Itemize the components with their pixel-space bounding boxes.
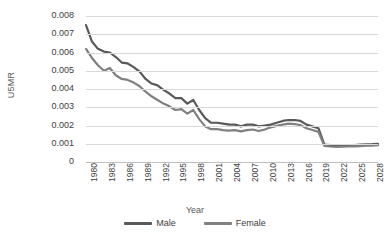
y-tick-label: 0.002 xyxy=(28,121,74,130)
legend-item-male[interactable]: Male xyxy=(124,218,176,228)
gridline xyxy=(86,144,378,145)
x-axis-tick-labels: 1980198319861989199219951998200120042007… xyxy=(86,165,378,205)
x-tick-label: 2028 xyxy=(376,163,390,203)
gridline xyxy=(86,126,378,127)
y-tick-label: 0.003 xyxy=(28,102,74,111)
gridline xyxy=(86,53,378,54)
series-line-male xyxy=(86,25,378,145)
y-axis-title: U5MR xyxy=(2,50,20,120)
y-axis-tick-labels: 0.0080.0070.0060.0050.0040.0030.0020.001… xyxy=(26,0,74,180)
gridline xyxy=(86,89,378,90)
chart-legend: MaleFemale xyxy=(0,218,390,228)
legend-swatch-male xyxy=(124,222,152,225)
legend-swatch-female xyxy=(204,222,232,225)
y-tick-label: 0.007 xyxy=(28,29,74,38)
legend-label-female: Female xyxy=(236,218,266,228)
gridline xyxy=(86,107,378,108)
y-tick-label: 0.001 xyxy=(28,139,74,148)
x-axis-title: Year xyxy=(0,205,390,215)
y-axis-title-text: U5MR xyxy=(6,72,16,99)
legend-item-female[interactable]: Female xyxy=(204,218,266,228)
y-tick-label: 0 xyxy=(28,157,74,166)
gridline xyxy=(86,71,378,72)
legend-label-male: Male xyxy=(156,218,176,228)
y-tick-label: 0.008 xyxy=(28,11,74,20)
y-tick-label: 0.005 xyxy=(28,66,74,75)
y-tick-label: 0.004 xyxy=(28,84,74,93)
gridline xyxy=(86,16,378,17)
gridline xyxy=(86,34,378,35)
chart-container: U5MR 0.0080.0070.0060.0050.0040.0030.002… xyxy=(0,0,390,236)
y-tick-label: 0.006 xyxy=(28,48,74,57)
plot-area xyxy=(86,16,378,162)
